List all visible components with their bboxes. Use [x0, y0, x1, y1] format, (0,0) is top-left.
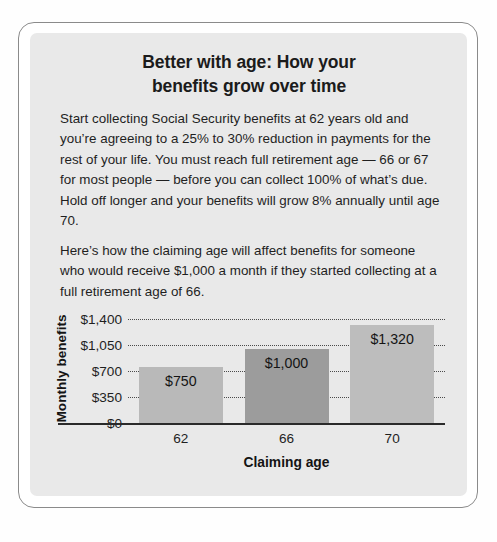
x-tick-label: 62: [139, 431, 223, 446]
y-tick-label: $700: [92, 364, 122, 379]
page-root: Better with age: How your benefits grow …: [0, 0, 497, 542]
y-tick-label: $1,400: [80, 312, 122, 327]
x-axis-title: Claiming age: [128, 455, 445, 470]
infographic-panel: Better with age: How your benefits grow …: [30, 33, 467, 496]
x-axis-line: [58, 423, 445, 425]
y-tick-label: $350: [92, 390, 122, 405]
bar-value-label: $750: [139, 373, 223, 389]
plot-area: $1,400$1,050$700$350$0 $750$1,000$1,320 …: [128, 319, 445, 423]
x-tick-label: 66: [245, 431, 329, 446]
bar-value-label: $1,320: [350, 331, 434, 347]
bar-chart: Monthly benefits $1,400$1,050$700$350$0 …: [30, 305, 467, 496]
bar-value-label: $1,000: [245, 355, 329, 371]
bar: $750: [139, 367, 223, 423]
page-title-line-2: benefits grow over time: [64, 74, 434, 98]
y-tick-label: $1,050: [80, 338, 122, 353]
bar: $1,320: [350, 325, 434, 423]
body-paragraph-2: Here’s how the claiming age will affect …: [60, 241, 440, 302]
gridline: [128, 319, 445, 320]
page-title-line-1: Better with age: How your: [64, 50, 434, 74]
bar: $1,000: [245, 349, 329, 423]
y-axis-title: Monthly benefits: [54, 314, 69, 424]
x-tick-label: 70: [350, 431, 434, 446]
body-paragraph-1: Start collecting Social Security benefit…: [60, 109, 440, 231]
page-title: Better with age: How your benefits grow …: [64, 50, 434, 98]
